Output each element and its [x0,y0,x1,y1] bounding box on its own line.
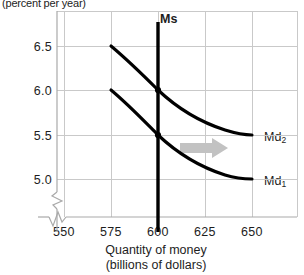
shift-arrow-shape [180,138,228,158]
y-axis-break-icon [52,192,62,209]
equilibrium-point-2 [155,87,161,93]
axes [38,11,297,232]
chart-canvas [0,0,304,275]
shift-arrow [180,138,228,158]
equilibrium-point-1 [155,132,161,138]
grid-lines [57,11,297,217]
